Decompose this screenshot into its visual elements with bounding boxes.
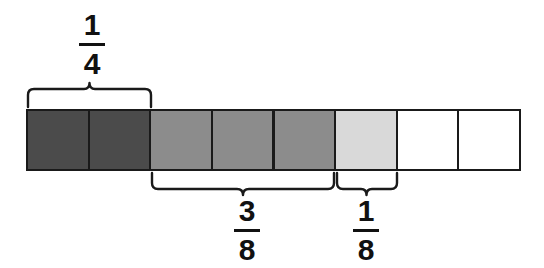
bar-segment-3 [150,110,212,170]
fraction-bar-line [234,229,260,232]
fraction-bar-figure: 1 4 3 8 1 8 [0,0,544,268]
one-eighth-brace [337,173,397,195]
bar-segment-8 [458,110,520,170]
bar-segment-2 [89,110,151,170]
fraction-label-one-quarter: 1 4 [64,10,120,79]
fraction-numerator: 1 [358,196,375,226]
fraction-numerator: 3 [239,196,256,226]
fraction-numerator: 1 [84,10,101,40]
fraction-denominator: 8 [239,235,256,265]
fraction-bar-line [79,43,105,46]
bar-segment-1 [27,110,89,170]
fraction-denominator: 4 [84,49,101,79]
bar-segment-5 [273,110,335,170]
bar-segment-6 [335,110,397,170]
fraction-bar-line [353,229,379,232]
fraction-label-one-eighth: 1 8 [338,196,394,265]
three-eighths-brace [152,173,334,195]
bar-segment-4 [212,110,274,170]
quarter-brace [28,83,151,107]
fraction-label-three-eighths: 3 8 [219,196,275,265]
bar-segment-7 [397,110,459,170]
fraction-denominator: 8 [358,235,375,265]
